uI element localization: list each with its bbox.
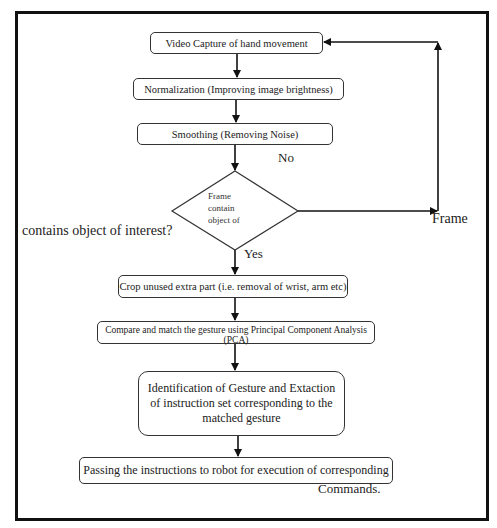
node-label: Normalization (Improving image brightnes… (144, 84, 333, 95)
node-crop: Crop unused extra part (i.e. removal of … (118, 275, 348, 298)
node-label-line2: (PCA) (224, 335, 249, 345)
frame-overflow-label: Frame (432, 211, 468, 227)
node-video-capture: Video Capture of hand movement (150, 32, 323, 54)
node-compare-pca: Compare and match the gesture using Prin… (97, 321, 375, 344)
node-smoothing: Smoothing (Removing Noise) (137, 123, 333, 145)
yes-label: Yes (244, 246, 263, 262)
commands-overflow-label: Commands. (318, 481, 380, 497)
node-label-line1: Identification of Gesture and Extaction (148, 381, 335, 396)
node-label: Passing the instructions to robot for ex… (83, 463, 388, 478)
decision-label: Frame contain object of (208, 190, 240, 226)
question-overflow-label: contains object of interest? (22, 223, 172, 239)
node-label: Video Capture of hand movement (165, 38, 307, 49)
node-label: Smoothing (Removing Noise) (172, 129, 299, 140)
node-normalization: Normalization (Improving image brightnes… (133, 78, 344, 100)
node-label-line1: Compare and match the gesture using Prin… (105, 325, 367, 335)
node-label: Crop unused extra part (i.e. removal of … (120, 281, 347, 292)
no-label: No (278, 150, 294, 166)
node-label-line2: of instruction set corresponding to the (150, 396, 332, 411)
node-passing-instructions: Passing the instructions to robot for ex… (79, 457, 393, 484)
node-identification: Identification of Gesture and Extaction … (138, 371, 345, 436)
node-label-line3: matched gesture (202, 411, 280, 426)
